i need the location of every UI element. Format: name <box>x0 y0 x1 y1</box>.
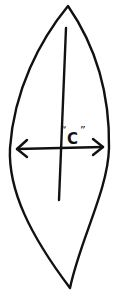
label-open-quote: “ <box>61 124 67 137</box>
measurement-label: C <box>67 130 78 148</box>
leaf-diagram: “ C ” <box>0 0 115 295</box>
midrib-line <box>59 28 66 200</box>
width-measurement-line <box>17 147 103 149</box>
label-close-quote: ” <box>80 124 86 137</box>
